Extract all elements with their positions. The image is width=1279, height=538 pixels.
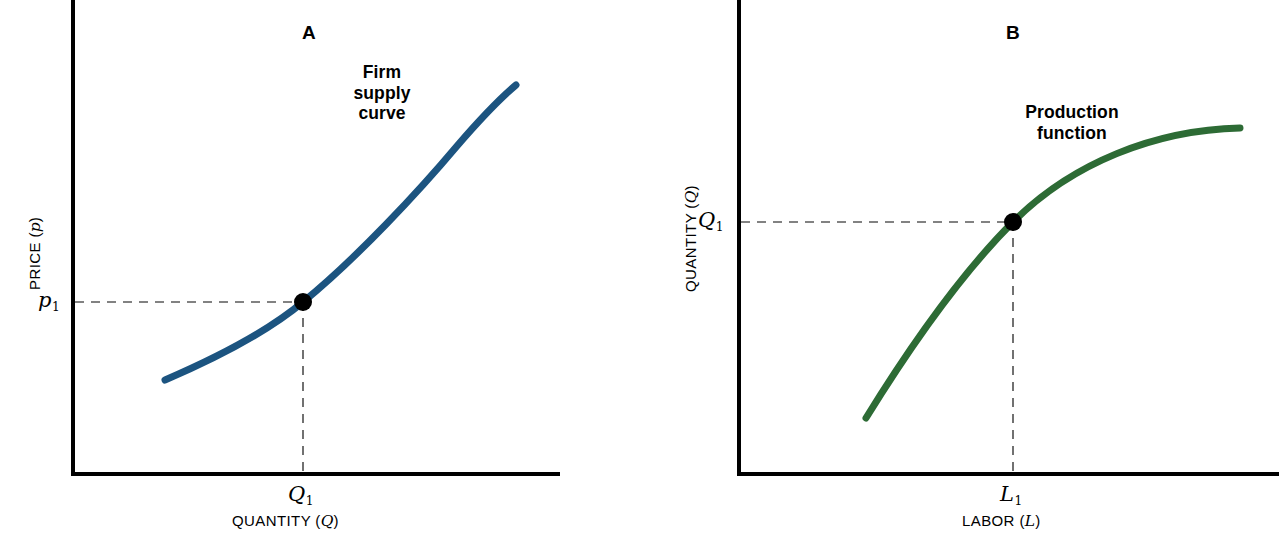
curve-label-line-1: Firm	[363, 62, 401, 82]
x-axis-title-close-b: )	[1035, 512, 1040, 529]
y-axis-title-close-a: )	[26, 217, 43, 222]
firm-supply-curve	[165, 85, 516, 380]
x-tick-sub-q1: 1	[306, 494, 314, 508]
panel-a-firm-supply: A Firm supply curve PRICE (p) p1 Q1 QUAN…	[0, 0, 640, 538]
x-axis-title-var-a: Q	[321, 512, 334, 530]
x-tick-label-l1: L1	[1000, 482, 1022, 507]
y-axis-title-text-b: QUANTITY (	[682, 203, 699, 292]
y-tick-var-q-b: Q	[698, 208, 715, 232]
economics-figure: A Firm supply curve PRICE (p) p1 Q1 QUAN…	[0, 0, 1279, 538]
y-axis-title-b: QUANTITY (Q)	[682, 185, 700, 292]
x-tick-sub-l1: 1	[1014, 494, 1022, 508]
y-axis-title-a: PRICE (p)	[26, 217, 44, 290]
x-axis-title-text-b: LABOR (	[962, 512, 1025, 529]
equilibrium-point-b	[1004, 213, 1022, 231]
y-axis-title-close-b: )	[682, 185, 699, 190]
y-tick-label-q1-b: Q1	[698, 208, 723, 233]
panel-b-production-function: B Production function QUANTITY (Q) Q1 L1…	[640, 0, 1279, 538]
x-tick-var-q: Q	[288, 482, 305, 506]
y-tick-sub-q1-b: 1	[716, 220, 724, 234]
x-axis-title-var-b: L	[1025, 512, 1035, 530]
y-axis-title-var-b: Q	[682, 191, 700, 204]
x-axis-title-text-a: QUANTITY (	[232, 512, 321, 529]
y-tick-sub-p1: 1	[52, 300, 60, 314]
x-axis-title-a: QUANTITY (Q)	[232, 512, 339, 530]
x-axis-title-close-a: )	[333, 512, 338, 529]
production-function-curve	[866, 128, 1240, 418]
panel-letter-a: A	[302, 22, 316, 44]
curve-label-b-line-1: Production	[1025, 102, 1118, 122]
curve-label-line-2: supply	[354, 83, 411, 103]
panel-b-plot	[640, 0, 1279, 538]
curve-label-b-line-2: function	[1037, 123, 1107, 143]
x-tick-var-l: L	[1000, 482, 1014, 506]
firm-supply-curve-label: Firm supply curve	[322, 62, 442, 124]
panel-a-plot	[0, 0, 640, 538]
y-axis-title-var-a: p	[26, 222, 44, 232]
production-function-label: Production function	[984, 102, 1160, 143]
y-axis-title-text-a: PRICE (	[26, 232, 43, 290]
equilibrium-point-a	[294, 293, 312, 311]
curve-label-line-3: curve	[358, 103, 405, 123]
panel-letter-b: B	[1006, 22, 1020, 44]
x-axis-title-b: LABOR (L)	[962, 512, 1041, 530]
y-tick-var-p: p	[38, 288, 51, 312]
x-tick-label-q1: Q1	[288, 482, 313, 507]
y-tick-label-p1: p1	[38, 288, 59, 313]
